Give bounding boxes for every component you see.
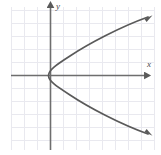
x-axis-label: x [146,59,151,69]
y-axis-label: y [55,1,60,11]
graph-canvas: x y [0,0,161,155]
parabola-graph-figure: x y [0,0,161,155]
